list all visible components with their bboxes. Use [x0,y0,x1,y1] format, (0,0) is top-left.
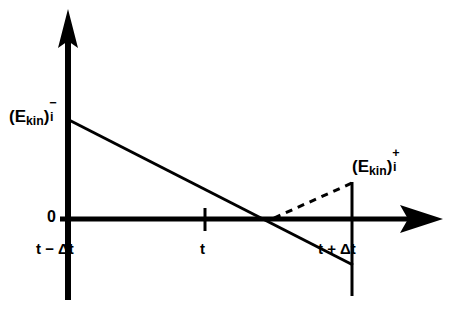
label-final-ek-superscript: + [392,147,399,160]
label-tick-t-plus-dt: t + Δt [318,241,356,256]
label-final-kinetic-energy: (Ekin) + i [352,155,403,175]
label-final-ek-open: (E [352,157,369,176]
label-origin-zero: 0 [47,209,56,225]
label-initial-kinetic-energy: (Ekin) − i [9,105,60,125]
series-line-rebound [274,183,352,218]
label-final-ek-kin: kin [369,164,387,178]
label-initial-ek-affixes: − i [49,105,60,122]
kinetic-energy-diagram: (Ekin) − i (Ekin) + i 0 t − Δt t t + Δt [0,0,451,310]
label-initial-ek-kin: kin [26,114,44,128]
label-final-ek-subscript: i [393,161,397,174]
label-tick-t-minus-dt: t − Δt [36,241,74,256]
label-initial-ek-open: (E [9,107,26,126]
series-line-decay [69,120,353,265]
label-initial-ek-superscript: − [49,97,56,110]
label-tick-t: t [200,241,205,256]
label-initial-ek-subscript: i [50,111,54,124]
label-final-ek-affixes: + i [392,155,403,172]
